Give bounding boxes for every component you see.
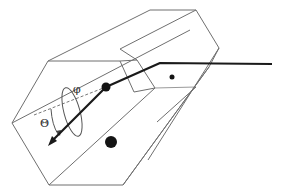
theta-arc bbox=[51, 109, 58, 134]
prism-right-edge-2 bbox=[123, 67, 209, 185]
prism-outline bbox=[12, 10, 219, 185]
phi-label: φ bbox=[73, 83, 81, 96]
scattering-diagram: φ Θ bbox=[0, 0, 283, 195]
scattering-point bbox=[102, 83, 111, 92]
reference-dashed-line bbox=[34, 87, 106, 115]
prism-right-edge-3 bbox=[157, 87, 196, 122]
small-dot bbox=[170, 75, 175, 80]
prism-lower-diagonal bbox=[49, 88, 155, 185]
prism-window-diagonal bbox=[120, 60, 137, 61]
large-dot bbox=[105, 136, 117, 148]
prism-lower-edge bbox=[155, 87, 196, 88]
ray-path bbox=[52, 63, 272, 141]
prism-back-top-edge bbox=[120, 10, 196, 49]
prism-exit-window bbox=[120, 49, 155, 92]
theta-label: Θ bbox=[40, 117, 49, 130]
